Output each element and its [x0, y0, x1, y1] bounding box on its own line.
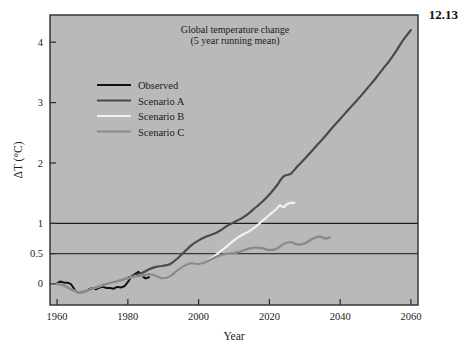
y-tick-label-3: 3 — [38, 97, 43, 108]
y-tick-label-0-5: 0.5 — [30, 248, 43, 259]
legend-label-scenario-b: Scenario B — [138, 111, 184, 122]
y-tick-label-0: 0 — [38, 278, 43, 289]
plot-background — [50, 15, 418, 305]
temperature-change-chart: 196019802000202020402060 00.51234 Year Δ… — [0, 0, 462, 355]
x-axis-title: Year — [223, 330, 244, 342]
x-tick-label-2060: 2060 — [400, 311, 421, 322]
figure-container: 196019802000202020402060 00.51234 Year Δ… — [0, 0, 462, 355]
chart-subtitle: (5 year running mean) — [190, 35, 279, 47]
legend-label-observed: Observed — [138, 80, 179, 91]
x-tick-label-1960: 1960 — [47, 311, 68, 322]
chart-title: Global temperature change — [181, 24, 290, 35]
y-tick-label-1: 1 — [38, 218, 43, 229]
figure-number: 12.13 — [429, 7, 458, 23]
x-tick-label-1980: 1980 — [117, 311, 138, 322]
legend-label-scenario-c: Scenario C — [138, 127, 184, 138]
y-tick-label-2: 2 — [38, 158, 43, 169]
x-tick-label-2000: 2000 — [188, 311, 209, 322]
x-tick-label-2040: 2040 — [330, 311, 351, 322]
y-axis-title: ΔT (°C) — [12, 141, 25, 178]
y-tick-label-4: 4 — [38, 37, 44, 48]
legend-label-scenario-a: Scenario A — [138, 96, 185, 107]
x-tick-label-2020: 2020 — [259, 311, 280, 322]
